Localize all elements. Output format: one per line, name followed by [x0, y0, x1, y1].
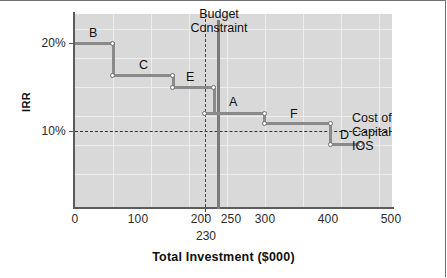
gridline-vertical [227, 14, 228, 207]
gridline-horizontal [75, 116, 392, 117]
step-node [170, 73, 175, 78]
step-drop-b-to-c [112, 42, 115, 75]
step-segment-c [112, 74, 175, 77]
step-segment-e [172, 86, 216, 89]
gridline-horizontal [75, 87, 392, 88]
project-label-c: C [139, 58, 148, 72]
project-label-e: E [186, 70, 195, 84]
x-tick-label-0: 0 [55, 212, 95, 226]
gridline-horizontal [75, 174, 392, 175]
budget-230-marker-line [205, 14, 206, 222]
project-label-a: A [229, 95, 238, 109]
cost-of-capital-label-line2: Capital [352, 126, 438, 140]
y-tick-label-10: 10% [28, 124, 66, 138]
step-drop-e-to-a [213, 86, 216, 113]
x-tick-label-500: 500 [371, 212, 411, 226]
step-segment-a [204, 112, 266, 115]
step-segment-b [75, 42, 115, 45]
project-label-f: F [290, 107, 298, 121]
step-node [202, 111, 207, 116]
step-node [262, 111, 267, 116]
x-tick-label-400: 400 [308, 212, 348, 226]
y-tick-label-20: 20% [28, 36, 66, 50]
project-label-d: D [340, 128, 349, 142]
step-node [110, 73, 115, 78]
ios-chart-figure: B C E A F D Budget Constraint Cost of Ca… [0, 0, 447, 278]
step-node [211, 85, 216, 90]
x-tick-label-100: 100 [118, 212, 158, 226]
step-segment-f [263, 122, 332, 125]
budget-constraint-label: Budget Constraint [177, 8, 261, 35]
step-node [262, 121, 267, 126]
y-tickmark [69, 43, 74, 44]
step-node [170, 85, 175, 90]
project-label-b: B [89, 26, 98, 40]
budget-constraint-label-line2: Constraint [177, 22, 261, 36]
budget-constraint-label-line1: Budget [177, 8, 261, 22]
gridline-vertical [151, 14, 152, 207]
gridline-vertical [303, 14, 304, 207]
budget-230-tick-label: 230 [186, 229, 226, 243]
gridline-vertical [341, 14, 342, 207]
cost-of-capital-label-line1: Cost of [352, 112, 438, 126]
gridline-vertical [189, 14, 190, 207]
step-node [328, 121, 333, 126]
gridline-horizontal [75, 58, 392, 59]
x-axis-title: Total Investment ($000) [0, 250, 447, 264]
plot-area [75, 14, 392, 207]
step-node [110, 41, 115, 46]
cost-of-capital-label: Cost of Capital [352, 112, 438, 139]
step-node [328, 142, 333, 147]
x-tick-label-300: 300 [245, 212, 285, 226]
x-axis-line [73, 207, 394, 209]
y-axis-title: IRR [20, 72, 32, 132]
y-tickmark [69, 131, 74, 132]
ios-series-label: IOS [352, 139, 374, 153]
